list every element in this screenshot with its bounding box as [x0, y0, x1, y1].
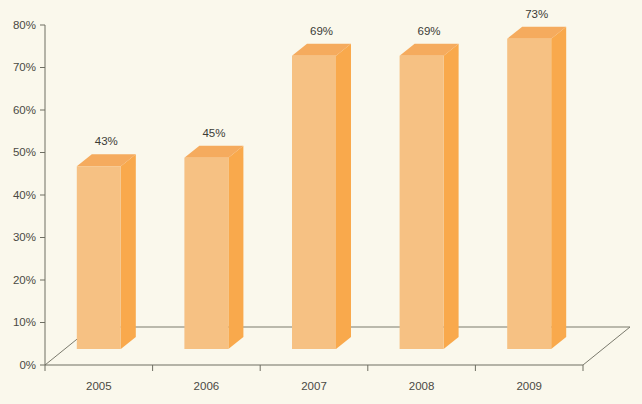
- bar-side-face: [121, 154, 136, 349]
- bar-2007: [292, 44, 351, 349]
- bar-side-face: [551, 27, 566, 349]
- bar-value-label: 45%: [202, 127, 225, 139]
- y-axis-tick-label: 20%: [13, 274, 36, 286]
- bar-2008: [400, 44, 459, 349]
- y-axis-tick-label: 10%: [13, 316, 36, 328]
- bars-layer: [77, 27, 566, 349]
- bar-front-face: [507, 39, 551, 349]
- y-axis-tick-label: 80%: [13, 19, 36, 31]
- bar-side-face: [228, 146, 243, 349]
- x-axis-labels-layer: 20052006200720082009: [86, 380, 542, 392]
- bar-front-face: [292, 56, 336, 349]
- bar-chart: 0%10%20%30%40%50%60%70%80% 43%45%69%69%7…: [0, 0, 642, 404]
- bar-2006: [184, 146, 243, 349]
- y-axis-tick-label: 70%: [13, 61, 36, 73]
- y-axis-tick-label: 50%: [13, 146, 36, 158]
- x-axis-category-label: 2009: [516, 380, 542, 392]
- bar-2009: [507, 27, 566, 349]
- bar-value-label: 73%: [525, 8, 548, 20]
- bar-value-label: 69%: [310, 25, 333, 37]
- bar-front-face: [77, 166, 121, 349]
- bar-front-face: [184, 158, 228, 349]
- bar-value-label: 69%: [418, 25, 441, 37]
- x-axis-category-label: 2006: [194, 380, 220, 392]
- bar-side-face: [336, 44, 351, 349]
- y-axis-tick-label: 30%: [13, 231, 36, 243]
- x-axis: [45, 365, 583, 371]
- x-axis-category-label: 2005: [86, 380, 112, 392]
- y-axis: 0%10%20%30%40%50%60%70%80%: [13, 19, 45, 371]
- y-axis-tick-label: 40%: [13, 189, 36, 201]
- y-axis-tick-label: 60%: [13, 104, 36, 116]
- x-axis-category-label: 2008: [409, 380, 435, 392]
- y-axis-tick-label: 0%: [19, 359, 36, 371]
- x-axis-category-label: 2007: [301, 380, 327, 392]
- chart-canvas: 0%10%20%30%40%50%60%70%80% 43%45%69%69%7…: [0, 0, 642, 404]
- bar-side-face: [444, 44, 459, 349]
- bar-front-face: [400, 56, 444, 349]
- bar-value-label: 43%: [95, 135, 118, 147]
- bar-2005: [77, 154, 136, 349]
